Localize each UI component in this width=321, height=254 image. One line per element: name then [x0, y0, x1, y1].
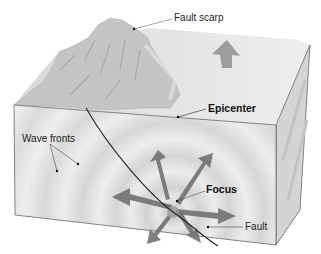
fault-scarp-label: Fault scarp	[174, 13, 223, 23]
focus-label: Focus	[206, 184, 237, 195]
earthquake-block-diagram	[0, 0, 321, 254]
wave-fronts-label: Wave fronts	[22, 134, 75, 144]
epicenter-label: Epicenter	[208, 103, 256, 114]
fault-label: Fault	[245, 222, 267, 232]
front-face	[14, 105, 276, 245]
